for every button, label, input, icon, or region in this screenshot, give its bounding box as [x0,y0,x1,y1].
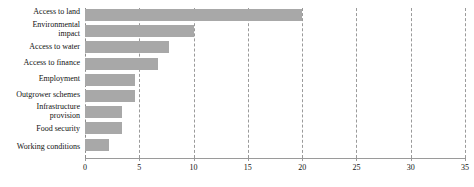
gridline [248,8,249,158]
x-tick-label: 20 [290,163,314,172]
x-axis-line [85,158,465,159]
bar [85,74,135,86]
x-tick-label: 35 [453,163,474,172]
x-tick-label: 5 [127,163,151,172]
gridline [356,8,357,158]
x-tick [85,158,86,161]
bar [85,106,122,118]
x-tick-label: 30 [399,163,423,172]
category-label: Outgrower schemes [0,91,80,100]
category-label: Working conditions [0,143,80,152]
x-tick-label: 0 [73,163,97,172]
x-tick [139,158,140,161]
x-tick-label: 10 [182,163,206,172]
category-label: Access to finance [0,59,80,68]
x-tick [465,158,466,161]
category-label: Food security [0,125,80,134]
x-tick-label: 15 [236,163,260,172]
plot-area [85,8,465,158]
bar [85,139,109,151]
bar [85,122,122,134]
x-tick [194,158,195,161]
x-tick [302,158,303,161]
gridline [194,8,195,158]
x-tick [248,158,249,161]
category-label: Access to water [0,43,80,52]
gridline [302,8,303,158]
bar [85,25,194,37]
category-label: Access to land [0,8,80,17]
bar [85,90,135,102]
bar [85,9,302,21]
x-tick-label: 25 [344,163,368,172]
category-label: Environmental impact [0,21,80,38]
x-tick [356,158,357,161]
gridline [465,8,466,158]
bar-chart: Access to land Environmental impact Acce… [0,0,474,187]
gridline [411,8,412,158]
category-label: Infrastructure provision [0,103,80,120]
bar [85,41,169,53]
bar [85,58,158,70]
category-label: Employment [0,75,80,84]
x-tick [411,158,412,161]
